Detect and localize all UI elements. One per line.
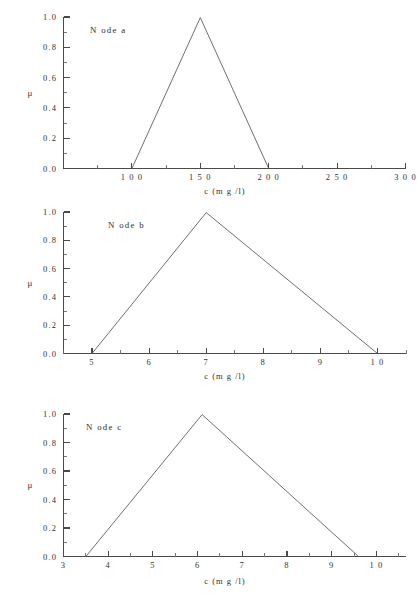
x-tick-label: 4 — [106, 560, 111, 570]
x-tick-label: 7 — [240, 560, 245, 570]
node-annotation-a: N ode a — [90, 25, 126, 35]
x-tick-label: 9 — [329, 560, 334, 570]
figure-fuzzy-membership-functions: 0.0 0.2 0.4 0.6 0.8 1.0 1 0 0 1 5 0 2 0 … — [0, 0, 419, 598]
axes-node-b — [64, 212, 407, 354]
node-annotation-c: N ode c — [86, 422, 122, 432]
x-tick-label: 9 — [318, 357, 323, 367]
y-tick-label: 0.4 — [43, 292, 57, 302]
x-tick-label: 5 — [150, 560, 155, 570]
x-ticks-node-c — [64, 551, 399, 557]
x-tick-label: 8 — [261, 357, 266, 367]
x-ticks-node-b — [64, 348, 407, 354]
chart-panel-node-a: 0.0 0.2 0.4 0.6 0.8 1.0 1 0 0 1 5 0 2 0 … — [0, 0, 419, 199]
x-tick-label: 6 — [195, 560, 200, 570]
chart-panel-node-c: 0.0 0.2 0.4 0.6 0.8 1.0 3 4 5 6 7 8 9 1 … — [0, 398, 419, 597]
x-tick-label: 1 0 — [371, 357, 385, 367]
x-tick-label: 1 0 0 — [121, 172, 144, 182]
y-tick-label: 0.2 — [43, 133, 57, 143]
y-axis-title-node-a: μ — [28, 88, 33, 98]
x-tick-label: 7 — [204, 357, 209, 367]
y-ticks-node-a — [64, 17, 70, 169]
x-axis-title-node-c: c (m g /l) — [204, 576, 245, 586]
x-tick-label: 3 — [61, 560, 66, 570]
y-tick-label: 1.0 — [43, 12, 57, 22]
y-ticks-node-b — [64, 212, 70, 354]
y-tick-label: 0.0 — [43, 552, 57, 562]
y-tick-label: 0.8 — [43, 235, 57, 245]
plot-node-a: 0.0 0.2 0.4 0.6 0.8 1.0 1 0 0 1 5 0 2 0 … — [0, 0, 419, 199]
chart-panel-node-b: 0.0 0.2 0.4 0.6 0.8 1.0 5 6 7 8 9 1 0 μ … — [0, 199, 419, 398]
y-axis-title-node-b: μ — [28, 278, 33, 288]
x-tick-label: 2 0 0 — [257, 172, 280, 182]
y-tick-labels-node-b: 0.0 0.2 0.4 0.6 0.8 1.0 — [43, 207, 57, 359]
plot-node-b: 0.0 0.2 0.4 0.6 0.8 1.0 5 6 7 8 9 1 0 μ … — [0, 199, 419, 398]
x-tick-label: 3 0 0 — [394, 172, 417, 182]
axes-node-c — [64, 414, 407, 557]
y-tick-label: 0.4 — [43, 103, 57, 113]
y-tick-label: 0.8 — [43, 42, 57, 52]
x-tick-label: 5 — [89, 357, 94, 367]
plot-node-c: 0.0 0.2 0.4 0.6 0.8 1.0 3 4 5 6 7 8 9 1 … — [0, 398, 419, 597]
y-tick-labels-node-a: 0.0 0.2 0.4 0.6 0.8 1.0 — [43, 12, 57, 174]
x-axis-title-node-b: c (m g /l) — [204, 371, 245, 381]
y-tick-label: 0.6 — [43, 73, 57, 83]
membership-curve-b — [92, 213, 378, 354]
x-tick-labels-node-a: 1 0 0 1 5 0 2 0 0 2 5 0 3 0 0 — [121, 172, 417, 182]
y-tick-label: 0.6 — [43, 264, 57, 274]
membership-curve-a — [132, 18, 269, 169]
x-tick-labels-node-b: 5 6 7 8 9 1 0 — [89, 357, 384, 367]
x-tick-label: 1 5 0 — [189, 172, 212, 182]
x-axis-title-node-a: c (m g /l) — [204, 186, 245, 196]
y-axis-title-node-c: μ — [28, 480, 33, 490]
y-tick-labels-node-c: 0.0 0.2 0.4 0.6 0.8 1.0 — [43, 409, 57, 562]
y-tick-label: 0.0 — [43, 349, 57, 359]
y-tick-label: 1.0 — [43, 207, 57, 217]
x-tick-labels-node-c: 3 4 5 6 7 8 9 1 0 — [61, 560, 384, 570]
y-tick-label: 0.8 — [43, 438, 57, 448]
y-tick-label: 0.2 — [43, 320, 57, 330]
axis-lines — [64, 414, 407, 557]
y-ticks-node-c — [64, 414, 70, 557]
y-tick-label: 0.2 — [43, 523, 57, 533]
y-tick-label: 0.4 — [43, 495, 57, 505]
node-annotation-b: N ode b — [108, 220, 145, 230]
x-tick-label: 2 5 0 — [326, 172, 349, 182]
x-tick-label: 6 — [146, 357, 151, 367]
y-tick-label: 0.6 — [43, 466, 57, 476]
x-tick-label: 8 — [284, 560, 289, 570]
x-ticks-node-a — [98, 163, 406, 169]
membership-curve-c — [86, 415, 359, 557]
axis-lines — [64, 212, 407, 354]
y-tick-label: 1.0 — [43, 409, 57, 419]
x-tick-label: 1 0 — [369, 560, 383, 570]
y-tick-label: 0.0 — [43, 164, 57, 174]
